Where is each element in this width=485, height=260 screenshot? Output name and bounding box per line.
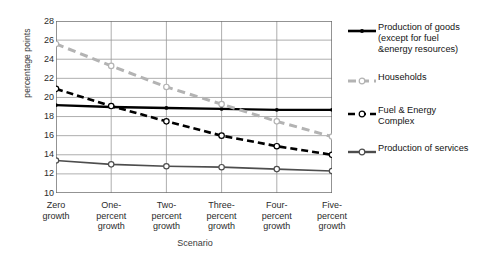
- legend-swatch-icon: [347, 23, 377, 35]
- x-axis-title: Scenario: [120, 238, 270, 248]
- y-axis-tick-label: 28: [28, 17, 54, 26]
- x-axis-tick-label: Five- percent growth: [300, 200, 364, 232]
- legend-item-label: Production of services: [377, 143, 468, 154]
- legend-item-label: Production of goods (except for fuel &en…: [377, 22, 460, 56]
- legend-swatch-icon: [347, 106, 377, 118]
- x-axis-tick-labels: Zero growthOne- percent growthTwo- perce…: [56, 196, 332, 240]
- plot-area: [56, 21, 332, 193]
- y-axis-tick-labels: 28262422201816141210: [26, 0, 54, 260]
- y-axis-tick-label: 14: [28, 150, 54, 159]
- series-canvas: [56, 21, 332, 193]
- legend-item-label: Fuel & Energy Complex: [377, 105, 436, 127]
- legend-item[interactable]: Production of services: [347, 143, 468, 156]
- y-axis-tick-label: 18: [28, 112, 54, 121]
- y-axis-tick-label: 10: [28, 189, 54, 198]
- legend-swatch-icon: [347, 73, 377, 85]
- legend-swatch-icon: [347, 144, 377, 156]
- y-axis-tick-label: 20: [28, 93, 54, 102]
- line-chart: percentage points 28262422201816141210 Z…: [0, 0, 485, 260]
- legend-item[interactable]: Households: [347, 72, 427, 85]
- legend-item-label: Households: [377, 72, 427, 83]
- y-axis-tick-label: 16: [28, 131, 54, 140]
- y-axis-tick-label: 22: [28, 74, 54, 83]
- legend-item[interactable]: Production of goods (except for fuel &en…: [347, 22, 460, 56]
- y-axis-tick-label: 24: [28, 55, 54, 64]
- y-axis-tick-label: 26: [28, 36, 54, 45]
- y-axis-tick-label: 12: [28, 169, 54, 178]
- legend-item[interactable]: Fuel & Energy Complex: [347, 105, 436, 127]
